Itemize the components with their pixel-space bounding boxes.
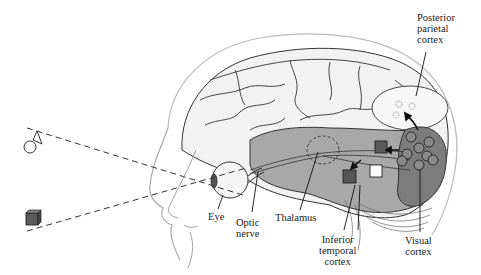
label-thalamus: Thalamus [275,212,316,223]
label-posterior-parietal-cortex: Posterior parietal cortex [417,12,455,45]
label-eye: Eye [208,211,224,222]
viewed-object-sphere-cone [24,131,42,153]
face-profile [168,150,198,268]
label-optic-nerve: Optic nerve [236,217,259,239]
label-inferior-temporal-cortex: Inferior temporal cortex [319,234,356,267]
viewed-object-cube [26,210,41,225]
diagram-canvas: Posterior parietal cortex Eye Optic nerv… [0,0,481,275]
label-visual-cortex: Visual cortex [405,235,432,257]
